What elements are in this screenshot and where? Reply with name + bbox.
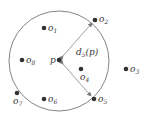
point-o5 [92, 97, 97, 102]
point-o6 [42, 97, 47, 102]
point-p [57, 58, 62, 63]
label-o3: o3 [130, 64, 139, 75]
label-o2: o2 [99, 14, 108, 25]
label-o1: o1 [48, 23, 57, 34]
label-o8: o8 [26, 55, 35, 66]
label-distance: d5(p) [76, 47, 99, 58]
point-o2 [93, 18, 98, 23]
label-o4: o4 [80, 72, 89, 83]
point-o8 [20, 58, 25, 63]
point-o4 [79, 67, 84, 72]
point-o7 [15, 91, 20, 96]
label-o6: o6 [48, 94, 57, 105]
label-o7: o7 [13, 96, 22, 107]
point-o3 [124, 67, 129, 72]
knn-diagram: o1 o2 o3 o4 o5 o6 o7 o8 p d5(p) [0, 0, 145, 121]
label-p: p [50, 55, 56, 65]
point-o1 [42, 26, 47, 31]
label-o5: o5 [98, 94, 107, 105]
